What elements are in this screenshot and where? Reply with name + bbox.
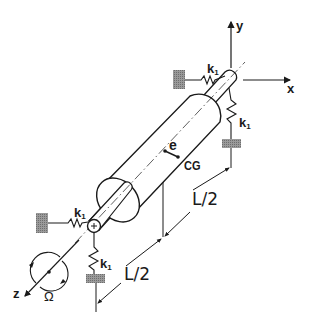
spring-label-left-vertical: k1 xyxy=(100,256,112,272)
cg-label: CG xyxy=(184,158,200,173)
rotation-speed-label: Ω xyxy=(44,289,54,304)
left-bearing-marker xyxy=(88,220,101,233)
rotor: e CG xyxy=(75,62,245,243)
y-axis: y xyxy=(231,18,244,68)
y-axis-label: y xyxy=(236,18,244,33)
z-axis-label: z xyxy=(13,286,20,301)
x-axis: x xyxy=(243,80,295,96)
spring-right-vertical: k1 xyxy=(222,88,251,148)
rotation-indicator: Ω xyxy=(29,252,68,304)
spring-left-horizontal: k1 xyxy=(36,205,88,233)
spring-label-right-vertical: k1 xyxy=(239,115,251,131)
spring-label-right-horizontal: k1 xyxy=(207,61,219,77)
eccentricity-label: e xyxy=(169,137,177,153)
rotor-bearing-diagram: y x L/2 L/2 xyxy=(0,0,311,323)
dimension-label-upper: L/2 xyxy=(192,189,218,209)
spring-label-left-horizontal: k1 xyxy=(74,205,86,221)
rotor-centerline xyxy=(75,62,245,243)
dimension-label-lower: L/2 xyxy=(124,264,150,284)
x-axis-label: x xyxy=(287,81,295,96)
spring-left-vertical: k1 xyxy=(86,233,112,283)
